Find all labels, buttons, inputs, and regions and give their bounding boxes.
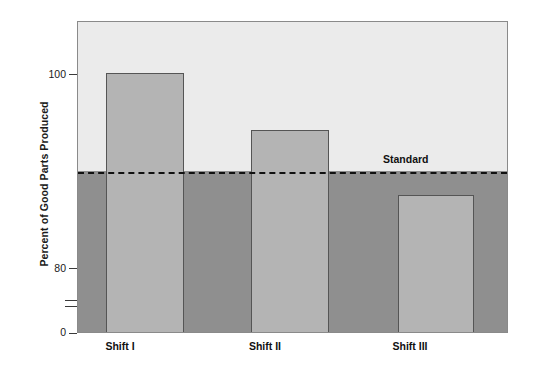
y-tick-label-80: 80 (44, 262, 66, 274)
standard-threshold-line (78, 172, 507, 174)
bar-shift-3[interactable] (398, 195, 474, 332)
x-tick-label-shift-3: Shift III (365, 340, 455, 352)
plot-area: Standard (77, 21, 508, 333)
x-tick-label-shift-2: Shift II (220, 340, 310, 352)
bar-shift-1[interactable] (106, 73, 184, 332)
y-tick-label-0: 0 (44, 326, 66, 338)
y-tick-mark-80 (69, 268, 77, 269)
y-tick-label-100: 100 (44, 68, 66, 80)
bar-chart: Percent of Good Parts Produced 100 80 0 … (0, 0, 534, 368)
y-tick-mark-100 (69, 74, 77, 75)
standard-label: Standard (383, 153, 429, 165)
x-tick-label-shift-1: Shift I (75, 340, 165, 352)
y-axis-title: Percent of Good Parts Produced (38, 74, 50, 294)
y-tick-mark-0 (69, 333, 77, 334)
bar-shift-2[interactable] (251, 130, 329, 332)
